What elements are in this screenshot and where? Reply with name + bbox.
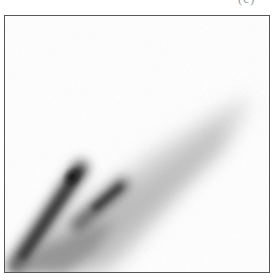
density-plot — [5, 16, 270, 273]
panel-label: (c) — [238, 0, 255, 7]
plot-frame — [4, 15, 270, 273]
